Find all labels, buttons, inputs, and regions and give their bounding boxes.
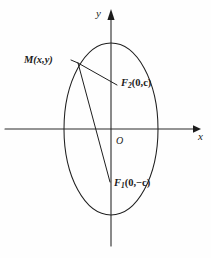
origin-label: O <box>116 136 123 146</box>
focus-f1-label: F1(0,−c) <box>114 178 150 189</box>
figure-canvas <box>0 0 211 258</box>
focus-f2-name: F <box>121 77 128 88</box>
focus-f2-label: F2(0,c) <box>121 78 151 89</box>
ellipse-figure: y x O M(x,y) F2(0,c) F1(0,−c) <box>0 0 211 258</box>
segment-m-to-f1 <box>78 63 110 182</box>
y-axis <box>107 9 114 246</box>
x-axis-label: x <box>198 131 203 142</box>
focus-f1-name: F <box>114 177 121 188</box>
focus-f1-coords: (0,−c) <box>125 177 151 188</box>
y-axis-label: y <box>96 8 101 19</box>
focus-f2-coords: (0,c) <box>132 77 152 88</box>
y-axis-arrowhead-icon <box>107 9 114 20</box>
point-m-label: M(x,y) <box>24 55 53 66</box>
m-label-leader <box>71 60 78 63</box>
x-axis <box>5 125 201 133</box>
